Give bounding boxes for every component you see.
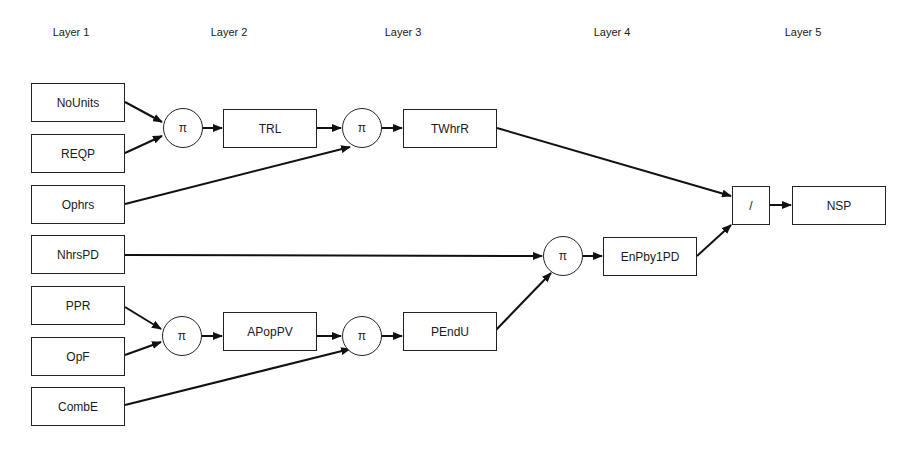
node-label: NSP <box>827 199 852 213</box>
node-combe: CombE <box>31 387 125 426</box>
product-operator-1: π <box>163 108 203 148</box>
pi-icon: π <box>358 121 366 135</box>
node-reqp: REQP <box>31 134 125 173</box>
node-apoppv: APopPV <box>223 312 317 351</box>
pi-icon: π <box>358 329 366 343</box>
division-operator: / <box>732 186 770 225</box>
edge-reqp-pi1 <box>125 136 162 153</box>
node-label: TRL <box>259 122 282 136</box>
node-enpby1pd: EnPby1PD <box>603 237 697 276</box>
divide-icon: / <box>749 199 752 213</box>
node-label: REQP <box>61 147 95 161</box>
node-label: PEndU <box>431 325 469 339</box>
edge-nounits-pi1 <box>125 102 162 122</box>
node-label: EnPby1PD <box>621 250 680 264</box>
edge-twhrr-div <box>497 128 731 196</box>
edge-pendu-pi5 <box>496 273 551 330</box>
edge-enpby1pd-div <box>697 225 731 256</box>
pi-icon: π <box>179 121 187 135</box>
edges-layer <box>0 0 909 453</box>
edge-nhrspd-pi5 <box>125 255 542 256</box>
node-nsp: NSP <box>792 186 886 225</box>
edge-opf-pi3 <box>125 342 161 355</box>
node-label: Ophrs <box>62 198 95 212</box>
node-nounits: NoUnits <box>31 83 125 122</box>
node-nhrspd: NhrsPD <box>31 235 125 274</box>
pi-icon: π <box>178 329 186 343</box>
edge-combe-pi4 <box>125 349 350 405</box>
node-trl: TRL <box>223 109 317 148</box>
node-label: OpF <box>66 350 89 364</box>
product-operator-4: π <box>342 316 382 356</box>
node-ophrs: Ophrs <box>31 185 125 224</box>
node-twhrr: TWhrR <box>403 109 497 148</box>
product-operator-5: π <box>543 236 583 276</box>
product-operator-2: π <box>342 108 382 148</box>
node-ppr: PPR <box>31 286 125 325</box>
node-opf: OpF <box>31 337 125 376</box>
node-label: CombE <box>58 400 98 414</box>
node-label: PPR <box>66 299 91 313</box>
node-label: TWhrR <box>431 122 469 136</box>
edge-ppr-pi3 <box>125 307 161 329</box>
node-label: NhrsPD <box>57 248 99 262</box>
node-label: APopPV <box>247 325 292 339</box>
node-label: NoUnits <box>57 96 100 110</box>
node-pendu: PEndU <box>403 312 497 351</box>
edge-ophrs-pi2 <box>125 147 350 204</box>
pi-icon: π <box>559 249 567 263</box>
product-operator-3: π <box>162 316 202 356</box>
